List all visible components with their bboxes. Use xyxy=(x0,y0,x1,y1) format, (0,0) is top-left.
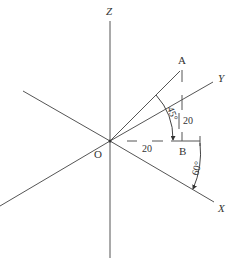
origin-label: O xyxy=(94,148,102,160)
x-axis-extension xyxy=(23,91,110,141)
angle-label-60: 60° xyxy=(189,160,203,176)
line-o-a xyxy=(110,71,180,141)
y-axis-label: Y xyxy=(218,72,226,84)
horizontal-dimension-label: 20 xyxy=(142,143,152,154)
x-axis-label: X xyxy=(217,202,226,214)
point-a-label: A xyxy=(178,54,186,66)
vertical-dimension-label: 20 xyxy=(183,115,193,126)
y-axis xyxy=(110,82,213,141)
angle-label-45: 45° xyxy=(165,105,180,122)
point-b-label: B xyxy=(179,145,186,157)
z-axis-label: Z xyxy=(106,5,113,17)
origin-point xyxy=(109,140,112,143)
axonometric-diagram: Z Y X 20 20 45° 60° A B O xyxy=(0,0,229,271)
